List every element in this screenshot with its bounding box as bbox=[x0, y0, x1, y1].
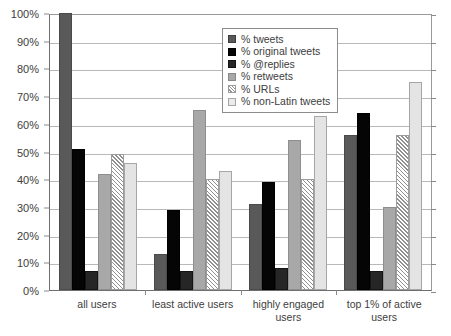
right-axis-tick-mark bbox=[431, 237, 436, 238]
bar bbox=[85, 271, 98, 290]
bar bbox=[219, 171, 232, 290]
right-axis-tick-mark bbox=[431, 98, 436, 99]
legend-item-label: % tweets bbox=[241, 34, 284, 45]
right-axis-tick-mark bbox=[431, 209, 436, 210]
bar-chart: 100%90%80%70%60%50%40%30%20%10%0% all us… bbox=[0, 0, 451, 336]
bar bbox=[72, 149, 85, 290]
y-axis-tick-label: 10% bbox=[17, 258, 39, 269]
legend-swatch-icon bbox=[228, 60, 236, 68]
y-axis: 100%90%80%70%60%50%40%30%20%10%0% bbox=[0, 14, 44, 291]
right-axis-tick-mark bbox=[431, 181, 436, 182]
bar bbox=[288, 140, 301, 290]
bar bbox=[249, 204, 262, 290]
bar bbox=[154, 254, 167, 290]
bar bbox=[98, 174, 111, 290]
y-axis-tick-label: 60% bbox=[17, 119, 39, 130]
bar bbox=[206, 179, 219, 290]
legend-swatch-icon bbox=[228, 98, 236, 106]
y-axis-tick-label: 30% bbox=[17, 202, 39, 213]
y-axis-tick-label: 70% bbox=[17, 92, 39, 103]
legend-item: % non-Latin tweets bbox=[228, 96, 330, 108]
legend-item-label: % URLs bbox=[241, 84, 280, 95]
legend-item: % @replies bbox=[228, 58, 330, 70]
right-axis-tick-mark bbox=[431, 126, 436, 127]
x-axis-tick-label: top 1% of active users bbox=[336, 298, 432, 324]
bar bbox=[314, 116, 327, 291]
y-axis-tick-label: 80% bbox=[17, 64, 39, 75]
y-axis-tick-label: 50% bbox=[17, 147, 39, 158]
legend-item: % original tweets bbox=[228, 46, 330, 58]
y-axis-tick-label: 100% bbox=[11, 9, 39, 20]
right-axis-tick-mark bbox=[431, 70, 436, 71]
right-axis-tick-mark bbox=[431, 292, 436, 293]
legend-item-label: % @replies bbox=[241, 59, 295, 70]
bar bbox=[409, 82, 422, 290]
right-axis-tick-mark bbox=[431, 15, 436, 16]
legend-swatch-icon bbox=[228, 48, 236, 56]
bar bbox=[167, 210, 180, 290]
bar bbox=[262, 182, 275, 290]
bar bbox=[396, 135, 409, 290]
bar bbox=[111, 154, 124, 290]
bar bbox=[344, 135, 357, 290]
y-axis-tick-label: 40% bbox=[17, 175, 39, 186]
bar-group bbox=[50, 15, 145, 290]
bar-group bbox=[336, 15, 431, 290]
x-axis-tick-label: highly engaged users bbox=[241, 298, 337, 324]
y-axis-tick-label: 20% bbox=[17, 230, 39, 241]
bar bbox=[59, 13, 72, 290]
legend-item-label: % retweets bbox=[241, 71, 293, 82]
bar bbox=[124, 163, 137, 290]
bar bbox=[383, 207, 396, 290]
legend-swatch-icon bbox=[228, 73, 236, 81]
legend-item-label: % original tweets bbox=[241, 46, 320, 57]
bar bbox=[180, 271, 193, 290]
legend-item-label: % non-Latin tweets bbox=[241, 96, 330, 107]
x-axis-tick-label: least active users bbox=[145, 298, 241, 324]
right-axis-tick-mark bbox=[431, 43, 436, 44]
x-axis-tick-label: all users bbox=[49, 298, 145, 324]
legend-swatch-icon bbox=[228, 35, 236, 43]
right-axis-tick-mark bbox=[431, 154, 436, 155]
legend-swatch-icon bbox=[228, 85, 236, 93]
legend: % tweets% original tweets% @replies% ret… bbox=[222, 28, 338, 113]
right-axis-tick-mark bbox=[431, 264, 436, 265]
bar bbox=[193, 110, 206, 290]
bar bbox=[275, 268, 288, 290]
legend-item: % URLs bbox=[228, 83, 330, 95]
bar bbox=[357, 113, 370, 290]
legend-item: % retweets bbox=[228, 71, 330, 83]
bar bbox=[301, 179, 314, 290]
y-axis-tick-label: 90% bbox=[17, 36, 39, 47]
y-axis-tick-label: 0% bbox=[23, 286, 39, 297]
bar bbox=[370, 271, 383, 290]
legend-item: % tweets bbox=[228, 33, 330, 45]
x-axis: all usersleast active usershighly engage… bbox=[49, 298, 432, 324]
